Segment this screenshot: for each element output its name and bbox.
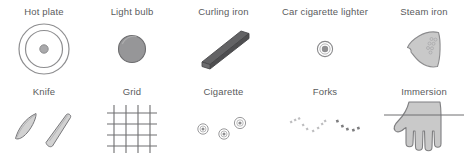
knife-icon — [11, 107, 77, 151]
panel-curling-iron: Curling iron — [176, 0, 271, 80]
panel-art-light-bulb — [88, 17, 176, 80]
car-cigarette-lighter-icon — [315, 39, 335, 59]
panel-art-car-cigarette-lighter — [271, 17, 379, 80]
grid-icon — [106, 104, 158, 154]
curling-iron-icon — [193, 26, 255, 72]
cigarette-icon — [193, 112, 255, 146]
figure-row-bottom: Knife Grid — [0, 80, 469, 160]
panel-steam-iron: Steam iron — [379, 0, 469, 80]
panel-knife: Knife — [0, 80, 88, 160]
panel-art-immersion — [379, 97, 469, 160]
panel-light-bulb: Light bulb — [88, 0, 176, 80]
panel-label-light-bulb: Light bulb — [111, 6, 154, 17]
figure-row-top: Hot plate Light bulb Curling iron — [0, 0, 469, 80]
panel-label-steam-iron: Steam iron — [400, 6, 447, 17]
panel-art-steam-iron — [379, 17, 469, 80]
panel-label-cigarette: Cigarette — [204, 86, 244, 97]
light-bulb-icon — [115, 32, 149, 66]
panel-cigarette: Cigarette — [176, 80, 271, 160]
panel-art-hot-plate — [0, 17, 88, 80]
burn-pattern-figure: Hot plate Light bulb Curling iron — [0, 0, 469, 160]
panel-immersion: Immersion — [379, 80, 469, 160]
hot-plate-icon — [15, 20, 73, 78]
panel-art-grid — [88, 97, 176, 160]
panel-grid: Grid — [88, 80, 176, 160]
panel-car-cigarette-lighter: Car cigarette lighter — [271, 0, 379, 80]
panel-label-car-cigarette-lighter: Car cigarette lighter — [282, 6, 368, 17]
panel-art-cigarette — [176, 97, 271, 160]
panel-label-forks: Forks — [313, 86, 338, 97]
panel-art-knife — [0, 97, 88, 160]
panel-hot-plate: Hot plate — [0, 0, 88, 80]
panel-label-grid: Grid — [123, 86, 142, 97]
immersion-icon — [384, 101, 464, 157]
panel-label-hot-plate: Hot plate — [24, 6, 63, 17]
panel-label-curling-iron: Curling iron — [198, 6, 248, 17]
panel-forks: Forks — [271, 80, 379, 160]
panel-label-knife: Knife — [33, 86, 55, 97]
panel-art-curling-iron — [176, 17, 271, 80]
panel-art-forks — [271, 97, 379, 160]
steam-iron-icon — [404, 28, 444, 70]
forks-icon — [286, 113, 364, 145]
panel-label-immersion: Immersion — [401, 86, 447, 97]
